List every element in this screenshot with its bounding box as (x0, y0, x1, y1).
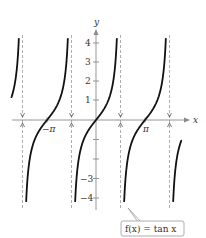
y-tick-1: 1 (85, 95, 91, 105)
y-tick-4: 4 (85, 38, 91, 48)
tan-branch-right-partial (173, 141, 181, 201)
function-label: f(x) = tan x (125, 224, 176, 234)
tan-branch-left-partial (11, 39, 18, 97)
x-axis-arrow-icon (184, 118, 190, 123)
y-axis-label: y (93, 17, 100, 27)
y-tick-3: 3 (85, 57, 91, 67)
y-axis: y 4 3 2 1 −3 −4 (80, 17, 100, 210)
x-tick-pi: π (142, 124, 150, 134)
x-axis-label: x (193, 115, 198, 125)
tangent-graph: x −π π y 4 3 2 1 −3 −4 (0, 0, 206, 238)
y-axis-arrow-icon (94, 29, 99, 35)
y-tick-neg-4: −4 (80, 193, 94, 203)
x-tick-neg-pi: −π (42, 124, 57, 134)
function-callout: f(x) = tan x (121, 208, 184, 236)
y-tick-2: 2 (85, 76, 91, 86)
y-tick-neg-3: −3 (80, 174, 94, 184)
